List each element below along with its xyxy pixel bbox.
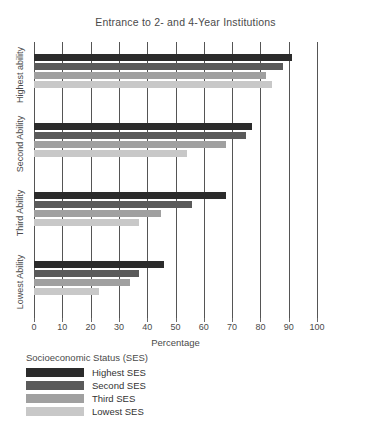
bar-group <box>34 180 317 249</box>
tick-label-100: 100 <box>309 322 324 332</box>
legend-item: Highest SES <box>26 366 246 379</box>
x-axis-title: Percentage <box>34 337 317 348</box>
x-axis-tick-labels: 0102030405060708090100 <box>34 322 317 336</box>
bar <box>34 192 226 199</box>
bar <box>34 279 130 286</box>
y-axis-category-label: Highest ability <box>15 40 25 110</box>
legend-swatch <box>26 394 84 403</box>
y-axis-category-label: Third Ability <box>15 178 25 248</box>
legend-label: Second SES <box>92 380 146 391</box>
tick-label-30: 30 <box>114 322 124 332</box>
bar <box>34 72 266 79</box>
legend-swatch <box>26 381 84 390</box>
tick-label-20: 20 <box>86 322 96 332</box>
legend: Socioeconomic Status (SES) Highest SESSe… <box>26 352 246 418</box>
tick-label-70: 70 <box>227 322 237 332</box>
plot-area <box>34 42 317 318</box>
bar-group <box>34 111 317 180</box>
page-title: Entrance to 2- and 4-Year Institutions <box>0 16 371 28</box>
bar <box>34 150 187 157</box>
y-axis-category-label: Second Ability <box>15 109 25 179</box>
bar <box>34 63 283 70</box>
legend-label: Highest SES <box>92 367 146 378</box>
bar-group <box>34 249 317 318</box>
y-axis-category-label: Lowest Ability <box>15 247 25 317</box>
legend-swatch <box>26 407 84 416</box>
legend-item: Lowest SES <box>26 405 246 418</box>
bar <box>34 210 161 217</box>
bar <box>34 81 272 88</box>
tick-label-40: 40 <box>142 322 152 332</box>
tick-label-90: 90 <box>284 322 294 332</box>
bar <box>34 219 139 226</box>
bar <box>34 288 99 295</box>
tick-label-60: 60 <box>199 322 209 332</box>
bar-group <box>34 42 317 111</box>
bars-layer <box>34 42 317 318</box>
tick-label-10: 10 <box>57 322 67 332</box>
gridline-100 <box>317 42 318 318</box>
bar <box>34 123 252 130</box>
legend-items: Highest SESSecond SESThird SESLowest SES <box>26 366 246 418</box>
bar <box>34 132 246 139</box>
legend-item: Second SES <box>26 379 246 392</box>
bar <box>34 54 292 61</box>
legend-title: Socioeconomic Status (SES) <box>26 352 246 363</box>
legend-label: Lowest SES <box>92 406 144 417</box>
bar <box>34 141 226 148</box>
legend-swatch <box>26 368 84 377</box>
bar <box>34 270 139 277</box>
tick-label-0: 0 <box>31 322 36 332</box>
bar <box>34 201 192 208</box>
tick-label-80: 80 <box>255 322 265 332</box>
legend-item: Third SES <box>26 392 246 405</box>
tick-label-50: 50 <box>170 322 180 332</box>
bar <box>34 261 164 268</box>
legend-label: Third SES <box>92 393 135 404</box>
